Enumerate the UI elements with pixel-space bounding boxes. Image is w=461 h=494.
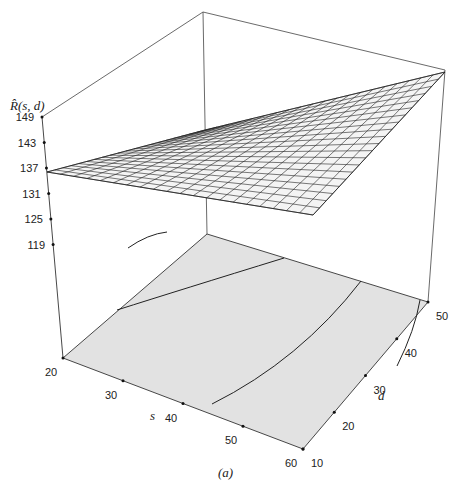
s-tick-mark — [182, 402, 185, 405]
s-tick-mark — [62, 357, 65, 360]
d-axis-title: d — [378, 388, 385, 403]
d-tick-mark — [302, 448, 305, 451]
s-tick-mark — [242, 425, 245, 428]
s-tick-label: 30 — [105, 389, 117, 401]
d-tick-label: 10 — [311, 457, 323, 469]
d-tick-label: 50 — [436, 310, 448, 322]
z-tick-mark — [41, 116, 44, 119]
z-tick-mark — [43, 141, 46, 144]
s-tick-label: 50 — [225, 434, 237, 446]
z-tick-mark — [49, 218, 52, 221]
d-tick-mark — [427, 301, 430, 304]
s-tick-label: 60 — [285, 457, 297, 469]
z-tick-label: 119 — [28, 239, 46, 251]
figure-caption: (a) — [218, 465, 233, 480]
d-tick-mark — [333, 411, 336, 414]
surface-chart: 149143137131125119 2030405060 1020304050… — [0, 0, 461, 494]
z-axis: 149143137131125119 — [16, 111, 63, 358]
s-tick-label: 20 — [45, 366, 57, 378]
s-axis-title: s — [150, 408, 155, 423]
z-tick-label: 125 — [25, 213, 43, 225]
z-tick-label: 143 — [18, 137, 36, 149]
z-tick-label: 131 — [22, 188, 40, 200]
d-tick-label: 40 — [405, 347, 417, 359]
base-plane — [63, 234, 428, 449]
z-tick-mark — [47, 192, 50, 195]
z-tick-mark — [52, 243, 55, 246]
z-tick-label: 137 — [20, 162, 38, 174]
d-tick-label: 20 — [342, 420, 354, 432]
z-axis-title: R̂(s, d) — [9, 98, 45, 113]
s-tick-label: 40 — [165, 412, 177, 424]
d-tick-mark — [364, 374, 367, 377]
d-tick-mark — [395, 337, 398, 340]
s-tick-mark — [122, 379, 125, 382]
z-tick-mark — [45, 167, 48, 170]
response-surface — [47, 72, 445, 215]
